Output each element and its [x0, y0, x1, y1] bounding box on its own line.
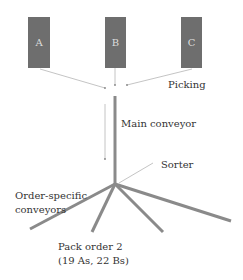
main-conveyor-label: Main conveyor: [121, 118, 196, 129]
pack-order-label-line2: (19 As, 22 Bs): [58, 255, 129, 266]
order-specific-label-line1: Order-specific: [15, 190, 87, 201]
svg-text:B: B: [112, 37, 119, 48]
picking-label: Picking: [168, 79, 206, 90]
pick-zone-c: C: [181, 17, 202, 68]
pack-order-label-line1: Pack order 2: [58, 241, 123, 252]
sorter-arrow: [119, 163, 153, 183]
pick-zone-b: B: [105, 17, 126, 68]
svg-text:A: A: [34, 37, 43, 48]
sorter-label: Sorter: [161, 159, 194, 170]
picking-sorting-diagram: A B C Picking Main co: [0, 0, 243, 280]
svg-text:C: C: [188, 37, 196, 48]
diagram-svg: A B C Picking Main co: [0, 0, 243, 280]
order-specific-label-line2: conveyors: [15, 204, 66, 215]
pick-zone-a: A: [28, 17, 50, 68]
